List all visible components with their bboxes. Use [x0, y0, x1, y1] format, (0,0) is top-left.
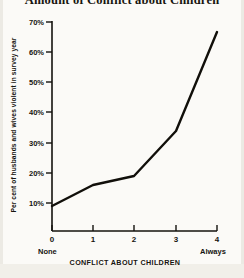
x-axis-ticks: [52, 225, 217, 231]
y-tick-label-50: 50%: [16, 78, 44, 87]
x-axis-title: CONFLICT ABOUT CHILDREN: [30, 258, 220, 267]
x-tick-label-3: 3: [168, 235, 184, 244]
y-tick-label-70: 70%: [16, 18, 44, 27]
y-tick-label-30: 30%: [16, 139, 44, 148]
y-axis-ticks: [46, 22, 52, 203]
scanned-figure-page: Amount of Conflict about Children 70%: [0, 0, 244, 278]
x-tick-label-0: 0: [44, 235, 60, 244]
data-series-line: [52, 32, 217, 206]
y-axis-title: Per cent of husbands and wives violent i…: [10, 43, 17, 213]
y-axis-title-wrap: Per cent of husbands and wives violent i…: [2, 38, 18, 218]
x-tick-label-1: 1: [85, 235, 101, 244]
y-tick-label-20: 20%: [16, 169, 44, 178]
x-axis-endpoint-always: Always: [200, 247, 226, 256]
x-tick-label-2: 2: [126, 235, 142, 244]
y-tick-label-10: 10%: [16, 199, 44, 208]
x-axis-endpoint-none: None: [38, 247, 57, 256]
y-tick-label-40: 40%: [16, 108, 44, 117]
y-tick-label-60: 60%: [16, 48, 44, 57]
x-tick-label-4: 4: [209, 235, 225, 244]
